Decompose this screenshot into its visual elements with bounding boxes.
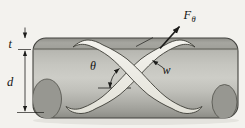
torsion-cylinder-figure: t d θ w F θ <box>0 0 245 128</box>
angle-label: θ <box>90 59 96 73</box>
left-endcap <box>33 79 62 119</box>
diagram-canvas: t d θ w F θ <box>0 0 245 128</box>
width-label: w <box>163 63 171 77</box>
force-label-subscript: θ <box>192 14 196 24</box>
force-label: F <box>183 8 192 22</box>
diameter-label: d <box>7 75 14 89</box>
right-endcap <box>212 85 237 120</box>
